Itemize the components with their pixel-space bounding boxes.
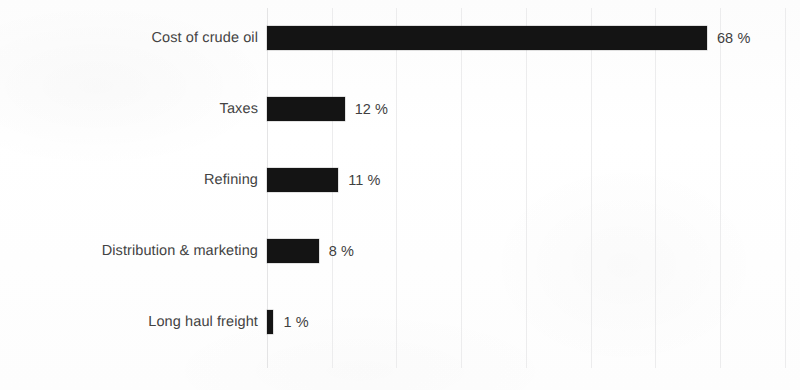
bar (267, 310, 273, 334)
category-label: Refining (204, 172, 258, 188)
bar (267, 168, 338, 192)
bar (267, 26, 707, 50)
value-label: 12 % (355, 101, 388, 117)
plot-area: Cost of crude oil68 %Taxes12 %Refining11… (267, 8, 776, 368)
bar-chart: Cost of crude oil68 %Taxes12 %Refining11… (0, 0, 800, 390)
value-label: 11 % (348, 172, 380, 188)
bar (267, 97, 345, 121)
value-label: 1 % (283, 314, 308, 330)
bar-row: Cost of crude oil68 % (267, 21, 776, 55)
category-label: Long haul freight (148, 314, 258, 330)
bar-row: Distribution & marketing8 % (267, 234, 776, 268)
category-label: Distribution & marketing (102, 243, 258, 259)
gridline-80 (785, 8, 786, 368)
value-label: 8 % (329, 243, 354, 259)
bar-row: Refining11 % (267, 163, 776, 197)
category-label: Cost of crude oil (152, 30, 258, 46)
category-label: Taxes (220, 101, 258, 117)
bar-row: Long haul freight1 % (267, 305, 776, 339)
value-label: 68 % (717, 30, 750, 46)
bar-row: Taxes12 % (267, 92, 776, 126)
bar (267, 239, 319, 263)
